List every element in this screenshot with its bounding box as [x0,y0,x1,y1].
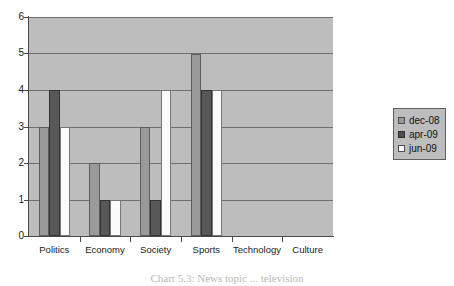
y-axis-tick [24,17,29,18]
bar-jun-09-economy [110,200,120,237]
bar-apr-09-society [150,200,160,237]
x-axis-tick [130,237,131,242]
y-axis-tick [24,127,29,128]
gridline [29,163,333,164]
y-axis-tick-label: 4 [2,85,24,95]
bar-apr-09-sports [201,90,211,236]
bar-apr-09-politics [49,90,59,236]
y-axis-tick [24,53,29,54]
legend-label: jun-09 [409,143,437,154]
y-axis-tick-label: 1 [2,195,24,205]
y-axis-tick [24,236,29,237]
legend-label: apr-09 [409,129,438,140]
x-axis-label-technology: Technology [232,244,283,255]
y-axis-tick [24,200,29,201]
gridline [29,200,333,201]
chart-legend: dec-08apr-09jun-09 [393,108,446,160]
bar-dec-08-economy [89,163,99,236]
y-axis-tick-label: 5 [2,48,24,58]
x-axis-label-sports: Sports [181,244,232,255]
y-axis-tick-label: 0 [2,231,24,241]
bar-apr-09-economy [100,200,110,237]
y-axis-labels: 0123456 [0,0,24,286]
legend-item-jun-09: jun-09 [398,141,440,155]
legend-swatch-icon [398,145,405,152]
legend-label: dec-08 [409,115,440,126]
y-axis-tick-label: 2 [2,158,24,168]
x-axis-tick [80,237,81,242]
gridline [29,127,333,128]
figure-caption: Chart 5.3: News topic ... television [0,272,454,285]
plot-area [29,17,333,236]
gridline [29,90,333,91]
y-axis-tick [24,90,29,91]
x-axis-label-politics: Politics [29,244,80,255]
y-axis-tick-label: 6 [2,12,24,22]
legend-swatch-icon [398,131,405,138]
x-axis-label-culture: Culture [282,244,333,255]
bar-dec-08-society [140,127,150,237]
bar-dec-08-sports [191,54,201,237]
bar-jun-09-politics [60,127,70,237]
gridline [29,17,333,18]
legend-item-apr-09: apr-09 [398,127,440,141]
x-axis-tick [181,237,182,242]
x-axis-tick [232,237,233,242]
x-axis-tick [282,237,283,242]
gridline [29,53,333,54]
bar-jun-09-sports [212,90,222,236]
bar-chart-figure: 0123456 dec-08apr-09jun-09 Chart 5.3: Ne… [0,0,454,286]
legend-swatch-icon [398,117,405,124]
x-axis-label-economy: Economy [80,244,131,255]
legend-item-dec-08: dec-08 [398,113,440,127]
bar-dec-08-politics [39,127,49,237]
x-axis-label-society: Society [130,244,181,255]
y-axis-tick [24,163,29,164]
y-axis-tick-label: 3 [2,122,24,132]
bar-jun-09-society [161,90,171,236]
